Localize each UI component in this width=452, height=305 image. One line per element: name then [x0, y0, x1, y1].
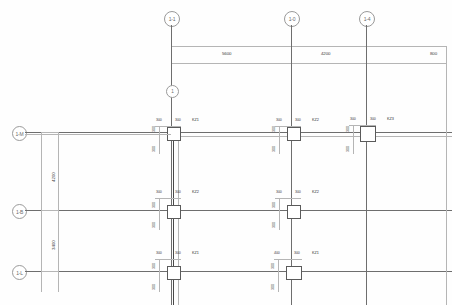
grid-axis-1-0 [291, 25, 292, 305]
column-kz2-1B-tag: KZ2 [192, 191, 199, 195]
grid-axis-1-M [25, 132, 452, 133]
column-kz2-1B-b-witness-left [279, 198, 280, 230]
column-kz2-1M-dim-w: 300 [276, 119, 282, 123]
column-kz2-1B-b-vdim-bot: 300 [273, 222, 277, 228]
column-kz1-1M-dim-w: 300 [156, 119, 162, 123]
column-kz2-1M-witness-left [279, 126, 280, 154]
column-kz1-1L-b-vdim-top: 300 [272, 263, 276, 269]
left-dim-tick-1-B [41, 210, 58, 211]
column-kz1-1L-b-dim-d: 300 [294, 252, 300, 256]
column-kz3-1M-witness-left [353, 125, 354, 154]
left-dim-line-outer [41, 132, 42, 292]
column-kz3-1M-dim-w: 300 [350, 118, 356, 122]
cad-drawing-canvas: 5600 4200 800 1-1 1-0 1-4 1 1-M 1-B 1-L … [0, 0, 452, 305]
column-kz1-1L-b-vdim-bot: 300 [272, 284, 276, 290]
column-kz1-1M-dim-d: 300 [175, 119, 181, 123]
dim-band-line-top [171, 46, 446, 47]
column-kz2-1B[interactable] [167, 205, 181, 219]
grid-bubble-1-M-label: 1-M [15, 131, 23, 137]
beam-run-vertical-b-face [178, 218, 179, 305]
column-kz2-1B-vdim-top: 300 [153, 202, 157, 208]
left-dim-tick-1-M [41, 132, 58, 133]
column-kz1-1L-dim-w: 300 [156, 252, 162, 256]
column-kz1-1L-b[interactable] [286, 266, 302, 280]
grid-bubble-1-0-label: 1-0 [289, 16, 296, 22]
dimension-800: 800 [430, 52, 437, 56]
column-kz2-1B-b[interactable] [287, 205, 301, 219]
dimension-5600: 5600 [222, 52, 231, 56]
column-kz3-1M-tag: KZ3 [387, 118, 394, 122]
grid-axis-1-1 [171, 25, 172, 305]
construction-line-right-edge [446, 46, 447, 305]
left-dim-tick-1-L [41, 271, 58, 272]
column-kz2-1M-dim-d: 300 [295, 119, 301, 123]
grid-bubble-1-L-label: 1-L [16, 270, 23, 276]
column-kz1-1L-b-tag: KZ1 [312, 252, 319, 256]
column-kz1-1L[interactable] [167, 266, 181, 280]
column-kz1-1M-tag: KZ1 [192, 119, 199, 123]
column-kz3-1M-vdim-top: 300 [347, 126, 351, 132]
grid-bubble-1-1-label: 1-1 [169, 16, 176, 22]
column-kz1-1L-witness-left [159, 259, 160, 292]
dimension-4200-vertical: 4200 [52, 172, 56, 182]
column-kz1-1L-vdim-top: 300 [153, 263, 157, 269]
column-kz2-1B-witness-left [159, 198, 160, 230]
column-kz3-1M-dim-d: 300 [370, 118, 376, 122]
grid-bubble-1-0[interactable]: 1-0 [284, 11, 300, 27]
grid-bubble-1-B-label: 1-B [16, 209, 23, 215]
column-kz2-1M-tag: KZ2 [312, 119, 319, 123]
grid-bubble-1-1[interactable]: 1-1 [164, 11, 180, 27]
grid-bubble-1-B[interactable]: 1-B [12, 204, 27, 219]
beam-face-1-M [171, 136, 452, 137]
column-kz2-1M[interactable] [287, 127, 301, 141]
column-kz2-1M-vdim-bot: 300 [273, 146, 277, 152]
column-kz1-1L-b-witness-left [278, 259, 279, 292]
column-kz2-1B-b-dim-w: 300 [276, 191, 282, 195]
column-kz1-1L-tag: KZ1 [192, 252, 199, 256]
column-kz1-1M-witness-left [159, 126, 160, 154]
beam-run-vertical-b [173, 218, 174, 305]
grid-bubble-1-L[interactable]: 1-L [12, 265, 27, 280]
column-kz2-1B-b-dim-d: 300 [295, 191, 301, 195]
grid-bubble-1-4-label: 1-4 [364, 16, 371, 22]
column-kz1-1M-vdim-bot: 300 [153, 146, 157, 152]
dimension-3400-vertical: 3400 [52, 240, 56, 250]
column-kz2-1B-dim-d: 300 [175, 191, 181, 195]
column-kz2-1B-vdim-bot: 300 [153, 222, 157, 228]
column-kz1-1L-b-dim-w: 400 [274, 252, 280, 256]
grid-axis-1-4 [366, 25, 367, 305]
dimension-4200: 4200 [321, 52, 330, 56]
column-kz2-1B-b-vdim-top: 300 [273, 202, 277, 208]
construction-line-left-1M [25, 134, 171, 135]
grid-axis-1-L [25, 271, 452, 272]
column-kz3-1M-vdim-bot: 300 [347, 146, 351, 152]
detail-bubble-1-label: 1 [171, 89, 173, 94]
detail-bubble-1[interactable]: 1 [166, 85, 179, 98]
dim-band-line-bottom [171, 63, 446, 64]
grid-axis-1-B [25, 210, 452, 211]
column-kz2-1B-b-tag: KZ2 [312, 191, 319, 195]
column-kz2-1B-dim-w: 300 [156, 191, 162, 195]
grid-bubble-1-4[interactable]: 1-4 [359, 11, 375, 27]
column-kz3-1M[interactable] [360, 126, 376, 142]
column-kz1-1L-vdim-bot: 300 [153, 284, 157, 290]
left-dim-line-inner [58, 132, 59, 292]
column-kz1-1L-dim-d: 300 [175, 252, 181, 256]
